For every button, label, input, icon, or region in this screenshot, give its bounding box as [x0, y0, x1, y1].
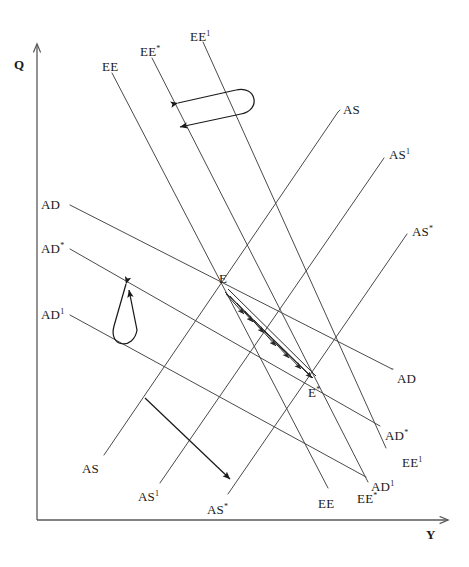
label-point-e: E	[219, 272, 227, 285]
as-star-curve	[228, 234, 407, 494]
label-as-prime-top: AS1	[389, 148, 410, 161]
diagram-canvas: Q Y EE EE* EE1 AS AS1 AS* AD AD* AD1 E E…	[0, 0, 469, 567]
ad-as-ee-diagram	[0, 0, 469, 567]
ad-curve-family	[70, 205, 392, 477]
as-shift-arrow	[145, 398, 230, 479]
as-prime-curve	[160, 158, 384, 483]
as-shift-arrow-path	[145, 398, 230, 479]
label-ad-left: AD	[41, 198, 60, 211]
ad-shift-loop-arrow	[113, 284, 137, 344]
label-point-e-star: E*	[308, 386, 320, 399]
x-axis-label: Y	[426, 528, 436, 541]
label-ee-top: EE	[102, 60, 118, 73]
cobweb-adjustment-path	[225, 289, 316, 378]
ee-star-curve	[152, 58, 368, 482]
label-as-star-top: AS*	[412, 225, 433, 238]
ee-shift-loop-path	[178, 89, 254, 127]
ad-shift-loop-path	[113, 284, 137, 344]
label-as-bottom: AS	[82, 462, 99, 475]
leader-as-top	[338, 110, 340, 112]
label-ee-star-bot: EE*	[357, 492, 378, 505]
cobweb-seg-1	[226, 294, 244, 314]
label-ee-prime-top: EE1	[190, 30, 211, 43]
cobweb-envelope-upper	[225, 292, 313, 378]
label-ad-right: AD	[397, 372, 416, 385]
y-axis-label: Q	[14, 58, 24, 71]
label-ee-star-top: EE*	[140, 45, 161, 58]
label-ad-star-left: AD*	[41, 242, 64, 255]
cobweb-envelope-lower	[228, 289, 316, 376]
as-curve-family	[104, 112, 407, 494]
label-ad-prime-left: AD1	[41, 308, 64, 321]
label-as-prime-bot: AS1	[138, 490, 159, 503]
label-ee-prime-bot-right: EE1	[402, 456, 423, 469]
axis-group	[37, 44, 448, 520]
leader-line-group	[338, 110, 393, 369]
ad-curve	[70, 205, 392, 369]
label-ad-star-right: AD*	[385, 429, 408, 442]
label-as-top: AS	[343, 103, 360, 116]
ee-shift-loop-arrow	[178, 89, 254, 127]
label-ee-bottom: EE	[318, 497, 334, 510]
label-as-star-bot: AS*	[207, 503, 228, 516]
